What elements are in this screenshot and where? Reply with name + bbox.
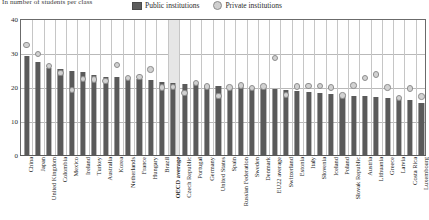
bar-group[interactable]	[404, 20, 415, 155]
marker-private[interactable]	[339, 92, 345, 98]
marker-private[interactable]	[418, 93, 424, 99]
bar-public[interactable]	[171, 83, 176, 155]
bar-group[interactable]	[179, 20, 190, 155]
bar-group[interactable]	[168, 20, 179, 155]
bar-group[interactable]	[292, 20, 303, 155]
bar-public[interactable]	[419, 103, 424, 155]
bar-group[interactable]	[77, 20, 88, 155]
bar-public[interactable]	[261, 89, 266, 155]
marker-private[interactable]	[147, 66, 153, 72]
bar-group[interactable]	[258, 20, 269, 155]
bar-group[interactable]	[337, 20, 348, 155]
x-axis-label: OECD average	[175, 157, 181, 198]
bar-public[interactable]	[374, 97, 379, 155]
marker-private[interactable]	[181, 90, 187, 96]
bar-public[interactable]	[58, 69, 63, 155]
bar-public[interactable]	[148, 80, 153, 155]
bar-public[interactable]	[137, 79, 142, 155]
bar-public[interactable]	[385, 98, 390, 155]
marker-private[interactable]	[226, 84, 232, 90]
bar-public[interactable]	[250, 88, 255, 155]
bar-public[interactable]	[80, 72, 85, 155]
bar-group[interactable]	[55, 20, 66, 155]
marker-private[interactable]	[407, 85, 413, 91]
marker-private[interactable]	[305, 83, 311, 89]
bar-group[interactable]	[190, 20, 201, 155]
bar-public[interactable]	[396, 99, 401, 155]
bar-public[interactable]	[340, 94, 345, 155]
bar-group[interactable]	[382, 20, 393, 155]
bar-public[interactable]	[272, 89, 277, 155]
bar-public[interactable]	[283, 90, 288, 155]
bar-group[interactable]	[303, 20, 314, 155]
x-axis-label: Slovenia	[321, 157, 327, 179]
bar-public[interactable]	[126, 79, 131, 156]
bar-group[interactable]	[280, 20, 291, 155]
bar-public[interactable]	[306, 92, 311, 155]
bar-group[interactable]	[111, 20, 122, 155]
bar-group[interactable]	[100, 20, 111, 155]
marker-private[interactable]	[350, 82, 356, 88]
bar-group[interactable]	[145, 20, 156, 155]
bar-public[interactable]	[114, 77, 119, 155]
bar-group[interactable]	[224, 20, 235, 155]
bar-group[interactable]	[213, 20, 224, 155]
bar-public[interactable]	[204, 85, 209, 155]
bar-group[interactable]	[123, 20, 134, 155]
bar-public[interactable]	[407, 100, 412, 155]
bar-public[interactable]	[24, 56, 29, 155]
bar-group[interactable]	[44, 20, 55, 155]
marker-private[interactable]	[35, 51, 41, 57]
bar-group[interactable]	[235, 20, 246, 155]
bar-group[interactable]	[156, 20, 167, 155]
marker-private[interactable]	[102, 78, 108, 84]
bar-public[interactable]	[295, 91, 300, 155]
bar-public[interactable]	[227, 87, 232, 155]
marker-private[interactable]	[272, 55, 278, 61]
marker-private[interactable]	[384, 84, 390, 90]
marker-private[interactable]	[23, 42, 29, 48]
bar-group[interactable]	[247, 20, 258, 155]
marker-private[interactable]	[373, 71, 379, 77]
marker-private[interactable]	[238, 82, 244, 88]
bar-group[interactable]	[371, 20, 382, 155]
marker-private[interactable]	[193, 80, 199, 86]
marker-private[interactable]	[159, 84, 165, 90]
marker-private[interactable]	[294, 83, 300, 89]
marker-private[interactable]	[317, 83, 323, 89]
bar-group[interactable]	[21, 20, 32, 155]
bar-group[interactable]	[32, 20, 43, 155]
bar-group[interactable]	[66, 20, 77, 155]
marker-private[interactable]	[136, 74, 142, 80]
bar-public[interactable]	[351, 96, 356, 156]
marker-private[interactable]	[215, 93, 221, 99]
bar-group[interactable]	[326, 20, 337, 155]
bar-public[interactable]	[92, 75, 97, 155]
bar-public[interactable]	[193, 84, 198, 155]
bar-public[interactable]	[159, 82, 164, 155]
marker-private[interactable]	[328, 84, 334, 90]
bar-public[interactable]	[69, 71, 74, 155]
bar-public[interactable]	[329, 94, 334, 155]
marker-private[interactable]	[114, 62, 120, 68]
bar-group[interactable]	[134, 20, 145, 155]
bar-public[interactable]	[238, 87, 243, 155]
bar-group[interactable]	[314, 20, 325, 155]
marker-private[interactable]	[57, 70, 63, 76]
bar-group[interactable]	[269, 20, 280, 155]
bar-public[interactable]	[47, 68, 52, 155]
marker-private[interactable]	[69, 87, 75, 93]
marker-private[interactable]	[362, 75, 368, 81]
bar-group[interactable]	[89, 20, 100, 155]
bar-public[interactable]	[362, 96, 367, 155]
bar-group[interactable]	[348, 20, 359, 155]
bar-group[interactable]	[393, 20, 404, 155]
bar-group[interactable]	[416, 20, 427, 155]
bar-public[interactable]	[103, 77, 108, 155]
marker-private[interactable]	[260, 83, 266, 89]
marker-private[interactable]	[204, 83, 210, 89]
bar-public[interactable]	[317, 93, 322, 155]
bar-group[interactable]	[201, 20, 212, 155]
bar-public[interactable]	[35, 62, 40, 155]
bar-group[interactable]	[359, 20, 370, 155]
